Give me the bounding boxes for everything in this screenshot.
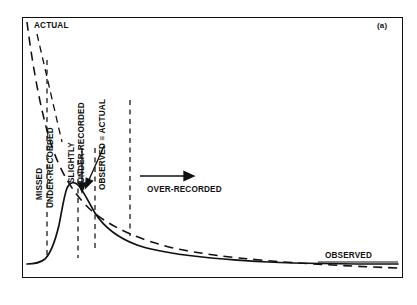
label-actual: ACTUAL: [34, 22, 69, 30]
label-over-recorded: OVER-RECORDED: [147, 186, 222, 194]
label-observed-equals-actual: OBSERVED ≡ ACTUAL: [99, 99, 107, 190]
label-under-recorded: UNDER-RECORDED: [47, 127, 55, 208]
label-slightly: SLIGHTLY: [68, 142, 76, 183]
label-observed: OBSERVED: [325, 252, 372, 260]
figure-panel-a: ACTUAL OBSERVED OVER-RECORDED (a) MISSED…: [0, 0, 417, 305]
label-slightly-under-recorded: UNDER-RECORDED: [78, 102, 86, 183]
panel-label: (a): [377, 22, 387, 30]
label-missed: MISSED: [36, 168, 44, 200]
